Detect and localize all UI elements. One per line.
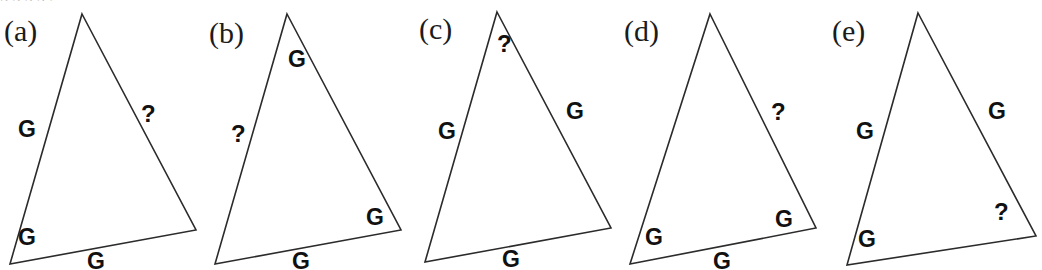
angle-apex-label-b: G (288, 48, 306, 71)
side-left-label-b: ? (231, 122, 246, 146)
angle-left-label-e: G (858, 228, 876, 251)
side-left-label-e: G (856, 120, 874, 143)
angle-right-label-b: G (366, 206, 384, 229)
angle-right-label-d: G (775, 208, 793, 231)
panel-e: (e)GG?G (822, 0, 1034, 270)
side-bottom-label-a: G (87, 250, 105, 270)
side-left-label-c: G (438, 120, 456, 143)
side-right-label-e: G (988, 100, 1006, 123)
panel-label-b: (b) (209, 18, 244, 48)
panel-d: (d)?GGG (620, 0, 832, 270)
angle-right-label-e: ? (994, 200, 1009, 224)
panel-a: (a)G?GG (0, 0, 212, 270)
panel-label-e: (e) (832, 16, 865, 46)
side-right-label-a: ? (141, 102, 156, 126)
panel-label-a: (a) (4, 16, 37, 46)
side-bottom-label-d: G (713, 250, 731, 270)
side-left-label-a: G (18, 118, 36, 141)
triangle-path (10, 14, 196, 264)
side-right-label-d: ? (771, 100, 786, 124)
side-right-label-c: G (566, 100, 584, 123)
side-bottom-label-c: G (502, 248, 520, 270)
panel-label-c: (c) (419, 14, 452, 44)
panel-label-d: (d) (624, 16, 659, 46)
angle-left-label-d: G (645, 226, 663, 249)
panel-c: (c)?GGG (415, 0, 627, 270)
angle-apex-label-c: ? (497, 32, 512, 56)
angle-left-label-a: G (18, 226, 36, 249)
side-bottom-label-b: G (292, 250, 310, 270)
panel-b: (b)G?GG (205, 0, 417, 270)
